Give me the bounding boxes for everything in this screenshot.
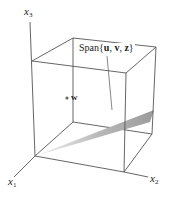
x2-axis-label: x2	[150, 173, 158, 186]
span-diagram: x3 x1 x2 Span{u, v, z} w	[0, 0, 176, 197]
x2-axis-line	[124, 172, 148, 177]
span-label: Span{u, v, z}	[78, 43, 135, 53]
plane-shading	[35, 110, 154, 156]
x1-axis-label: x1	[8, 176, 16, 189]
back-right-vertical-edge	[152, 47, 156, 134]
top-left-edge	[32, 38, 73, 61]
x3-axis-label: x3	[24, 6, 32, 19]
x3-axis-line	[30, 22, 35, 156]
span-leader-line	[107, 56, 112, 110]
left-bottom-edge	[35, 122, 73, 156]
point-w-label: w	[71, 93, 78, 102]
front-bottom-edge	[35, 156, 124, 172]
box-drawing	[0, 0, 176, 197]
top-front-edge	[32, 61, 126, 73]
x1-axis-line	[14, 156, 35, 177]
right-bottom-edge	[124, 134, 152, 172]
point-w-marker	[65, 96, 68, 99]
